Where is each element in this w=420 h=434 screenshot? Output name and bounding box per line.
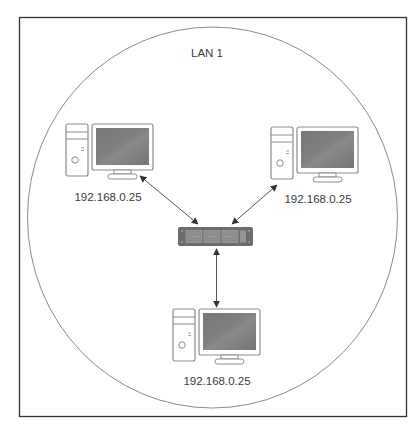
- computer-right: 192.168.0.25: [271, 127, 358, 205]
- switch-screw-icon: [248, 241, 250, 243]
- lan-title: LAN 1: [191, 47, 223, 59]
- ip-label-left: 192.168.0.25: [74, 191, 141, 203]
- diagram-frame: [20, 18, 407, 417]
- switch-screw-icon: [181, 230, 183, 232]
- ip-label-right: 192.168.0.25: [284, 193, 351, 205]
- ip-label-bottom: 192.168.0.25: [183, 375, 250, 387]
- computer-bottom: 192.168.0.25: [173, 309, 260, 387]
- lan-diagram: LAN 1 192.168.0.25 192.168.0.25 192.168.…: [0, 0, 420, 434]
- network-switch: [178, 227, 253, 246]
- switch-status-panel: [240, 231, 246, 243]
- switch-screw-icon: [181, 241, 183, 243]
- computer-left: 192.168.0.25: [66, 124, 153, 203]
- switch-screw-icon: [248, 230, 250, 232]
